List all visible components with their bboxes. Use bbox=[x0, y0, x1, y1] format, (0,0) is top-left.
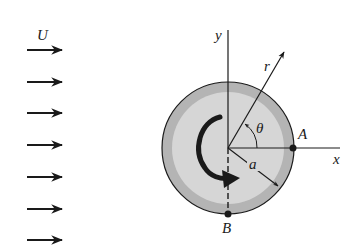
x-axis-label: x bbox=[332, 151, 340, 167]
radius-vector-label: r bbox=[264, 58, 270, 74]
point-a-marker bbox=[290, 145, 297, 152]
freestream-arrows bbox=[27, 50, 62, 240]
y-axis-label: y bbox=[213, 27, 222, 43]
cylinder-flow-diagram: U y x r θ a A B bbox=[0, 0, 356, 247]
angle-label: θ bbox=[256, 120, 264, 136]
cylinder-radius-label: a bbox=[249, 156, 257, 172]
freestream-label: U bbox=[37, 27, 49, 43]
point-b-label: B bbox=[222, 220, 231, 236]
point-a-label: A bbox=[297, 126, 308, 142]
point-b-marker bbox=[225, 211, 232, 218]
